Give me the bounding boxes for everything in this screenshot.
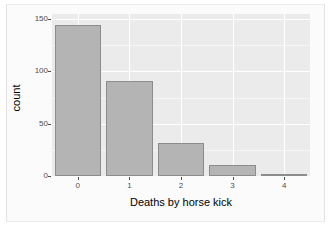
y-axis-title: count	[10, 68, 22, 128]
x-axis-tick-label: 1	[114, 182, 144, 190]
gridline-major-x	[233, 14, 234, 176]
bar	[106, 81, 152, 176]
device-edge-top	[6, 4, 325, 5]
x-axis-tick-label: 4	[269, 182, 299, 190]
device-edge-bottom	[6, 221, 325, 222]
device-edge-left	[6, 4, 7, 222]
y-axis-tick-label: 50	[22, 120, 48, 128]
x-axis-tick-mark	[181, 177, 182, 180]
x-axis-tick-mark	[284, 177, 285, 180]
gridline-major-x	[284, 14, 285, 176]
chart-screenshot: count 050100150 01234 Deaths by horse ki…	[0, 0, 331, 229]
plot-panel	[52, 14, 310, 176]
x-axis-tick-label: 0	[63, 182, 93, 190]
y-axis-tick-labels: 050100150	[22, 0, 48, 229]
y-axis-tick-mark	[48, 176, 51, 177]
x-axis-tick-mark	[78, 177, 79, 180]
x-axis-tick-mark	[129, 177, 130, 180]
bar	[55, 25, 101, 176]
x-axis-tick-label: 3	[218, 182, 248, 190]
x-axis-title: Deaths by horse kick	[52, 196, 310, 208]
bar	[158, 143, 204, 176]
y-axis-tick-mark	[48, 71, 51, 72]
bar	[261, 174, 307, 176]
y-axis-tick-label: 150	[22, 15, 48, 23]
y-axis-tick-mark	[48, 124, 51, 125]
x-axis-tick-mark	[233, 177, 234, 180]
x-axis-tick-label: 2	[166, 182, 196, 190]
y-axis-tick-label: 0	[22, 172, 48, 180]
bar	[209, 165, 255, 176]
device-edge-right	[324, 4, 325, 222]
y-axis-tick-label: 100	[22, 67, 48, 75]
y-axis-tick-mark	[48, 19, 51, 20]
